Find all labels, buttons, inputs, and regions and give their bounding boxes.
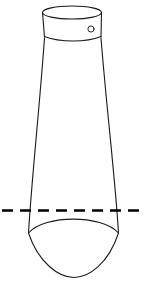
vessel-drawing-svg xyxy=(0,0,148,298)
figure-root xyxy=(0,0,148,298)
neck-right-edge xyxy=(101,13,102,38)
